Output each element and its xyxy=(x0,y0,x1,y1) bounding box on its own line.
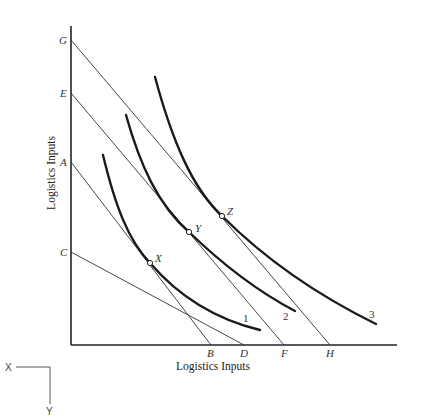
isoquant-diagram: X Y Z G E A C B D F H 1 2 3 Logistics In… xyxy=(0,0,427,419)
orientation-y-label: Y xyxy=(46,406,53,417)
label-a: A xyxy=(59,156,67,168)
point-z-marker xyxy=(219,213,224,218)
isoquant-1 xyxy=(103,155,260,330)
curve-2-label: 2 xyxy=(283,310,289,322)
label-e: E xyxy=(59,87,67,99)
label-c: C xyxy=(60,246,68,258)
isoquant-2 xyxy=(126,115,295,311)
orientation-x-label: X xyxy=(5,362,12,373)
point-x-label: X xyxy=(154,252,163,264)
label-f: F xyxy=(280,347,288,359)
isoquant-3 xyxy=(155,77,376,324)
budget-line-gh xyxy=(71,40,330,345)
y-axis-title: Logistics Inputs xyxy=(45,136,58,210)
point-y-label: Y xyxy=(195,222,203,234)
curve-3-label: 3 xyxy=(369,308,375,320)
label-b: B xyxy=(207,347,214,359)
orientation-marker xyxy=(16,367,50,404)
label-h: H xyxy=(325,347,335,359)
x-axis-title: Logistics Inputs xyxy=(176,360,250,373)
label-g: G xyxy=(59,34,67,46)
point-z-label: Z xyxy=(227,205,234,217)
curve-1-label: 1 xyxy=(243,312,249,324)
label-d: D xyxy=(239,347,248,359)
point-y-marker xyxy=(186,229,191,234)
point-x-marker xyxy=(147,260,152,265)
budget-line-cd xyxy=(71,252,244,345)
